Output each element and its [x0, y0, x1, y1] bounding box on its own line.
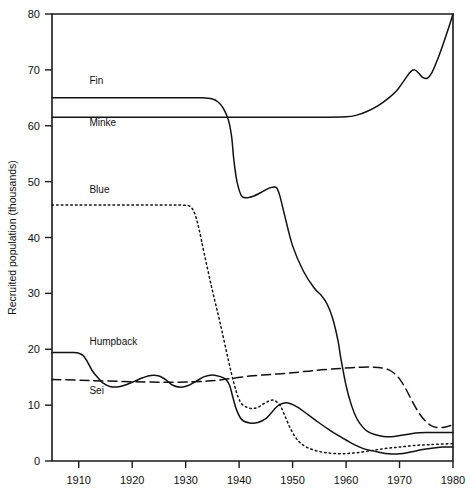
series-line-blue	[52, 205, 453, 454]
x-tick-label: 1920	[120, 474, 144, 486]
chart-canvas: 0102030405060708019101920193019401950196…	[0, 0, 470, 501]
whale-population-chart: 0102030405060708019101920193019401950196…	[0, 0, 470, 501]
series-line-humpback	[52, 353, 453, 454]
series-label-fin: Fin	[89, 75, 103, 86]
y-tick-label: 40	[28, 232, 40, 244]
y-tick-label: 30	[28, 287, 40, 299]
series-label-minke: Minke	[89, 117, 116, 128]
y-axis-title: Recruited population (thousands)	[6, 160, 18, 315]
x-tick-label: 1940	[227, 474, 251, 486]
x-tick-label: 1910	[66, 474, 90, 486]
series-line-fin	[52, 98, 453, 437]
plot-frame	[52, 14, 453, 461]
series-line-minke	[52, 14, 453, 117]
y-tick-label: 10	[28, 399, 40, 411]
x-tick-label: 1950	[280, 474, 304, 486]
y-tick-label: 60	[28, 120, 40, 132]
series-label-humpback: Humpback	[89, 336, 138, 347]
x-tick-label: 1970	[387, 474, 411, 486]
y-tick-label: 20	[28, 343, 40, 355]
y-tick-label: 80	[28, 8, 40, 20]
x-tick-label: 1960	[334, 474, 358, 486]
series-label-sei: Sei	[89, 385, 103, 396]
y-tick-label: 50	[28, 176, 40, 188]
x-tick-label: 1980	[441, 474, 465, 486]
y-tick-label: 0	[34, 455, 40, 467]
y-tick-label: 70	[28, 64, 40, 76]
series-label-blue: Blue	[89, 184, 109, 195]
series-line-sei	[52, 367, 453, 428]
x-tick-label: 1930	[173, 474, 197, 486]
